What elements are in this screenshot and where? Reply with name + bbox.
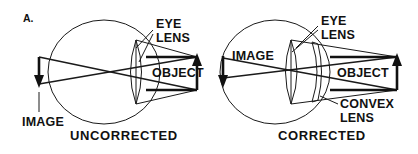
lens-label-line2: LENS xyxy=(156,31,190,45)
convex-lens-label-line2: LENS xyxy=(340,111,374,125)
convex-label-line1: CONVEX xyxy=(340,97,394,111)
object-label: OBJECT xyxy=(337,66,389,80)
eye-label-line1: EYE xyxy=(321,14,347,28)
diagram-canvas: A. OBJECT xyxy=(0,0,418,154)
lens-label-line2: LENS xyxy=(321,28,355,42)
caption-corrected: CORRECTED xyxy=(278,128,366,143)
image-label: IMAGE xyxy=(232,49,274,63)
panel-letter: A. xyxy=(23,12,34,24)
object-label: OBJECT xyxy=(152,66,204,80)
caption-uncorrected: UNCORRECTED xyxy=(70,128,178,143)
optics-figure: A. OBJECT xyxy=(0,0,418,154)
image-label: IMAGE xyxy=(22,115,64,129)
eye-label-line1: EYE xyxy=(156,17,182,31)
